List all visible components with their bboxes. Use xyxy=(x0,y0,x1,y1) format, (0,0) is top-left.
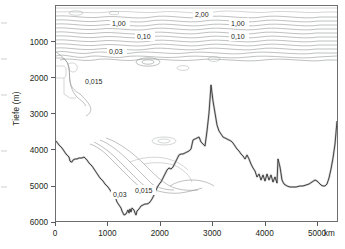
x-tick-label-4000: 4000 xyxy=(245,229,285,238)
contour-group-lower-left xyxy=(90,138,214,193)
page-edge-artifact xyxy=(1,186,7,188)
cross-section-svg xyxy=(56,6,337,221)
page-edge-artifact xyxy=(1,150,7,152)
bathymetry-shadow xyxy=(56,85,337,215)
x-tick-label-2000: 2000 xyxy=(140,229,180,238)
y-tick-label-1000: 1000 xyxy=(16,38,48,47)
y-tick-label-6000: 6000 xyxy=(16,218,48,227)
x-tick-mark-2000 xyxy=(160,222,161,226)
y-tick-label-4000: 4000 xyxy=(16,146,48,155)
x-tick-mark-5000 xyxy=(317,222,318,226)
contour-group-upper xyxy=(56,8,337,61)
ocean-depth-cross-section-figure: Tiefe (m) 1000 2000 3000 4000 5000 6000 … xyxy=(0,0,345,249)
x-tick-label-1000: 1000 xyxy=(87,229,127,238)
page-edge-artifact xyxy=(1,94,7,96)
contour-group-left-tongue xyxy=(56,52,91,116)
x-axis-unit-label: km xyxy=(324,229,335,238)
plot-area: 2,00 1,00 1,00 0,10 0,10 0,03 xyxy=(55,5,338,222)
page-edge-artifact xyxy=(1,58,7,60)
x-tick-mark-1000 xyxy=(107,222,108,226)
y-tick-label-2000: 2000 xyxy=(16,74,48,83)
y-tick-label-5000: 5000 xyxy=(16,182,48,191)
x-tick-label-0: 0 xyxy=(35,229,75,238)
contour-group-closed-cells xyxy=(69,11,220,145)
y-tick-label-3000: 3000 xyxy=(16,110,48,119)
x-tick-mark-3000 xyxy=(212,222,213,226)
y-axis-title: Tiefe (m) xyxy=(12,74,21,144)
bathymetry-profile xyxy=(56,85,337,215)
page-edge-artifact xyxy=(1,22,7,24)
x-tick-label-3000: 3000 xyxy=(192,229,232,238)
x-tick-mark-0 xyxy=(55,222,56,226)
x-tick-mark-4000 xyxy=(265,222,266,226)
